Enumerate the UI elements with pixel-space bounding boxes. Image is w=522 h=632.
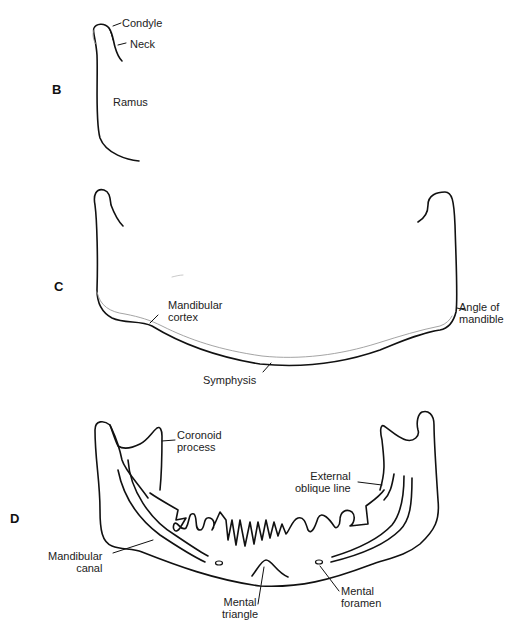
label-symphysis: Symphysis: [203, 374, 256, 386]
panel-letter-c: C: [54, 279, 63, 294]
label-mandibular-canal: Mandibular canal: [48, 550, 102, 574]
label-line: Mental: [222, 596, 258, 608]
label-line: cortex: [168, 311, 222, 323]
label-angle-of-mandible: Angle of mandible: [459, 301, 504, 325]
label-line: Mandibular: [168, 299, 222, 311]
label-mental-foramen: Mental foramen: [341, 585, 381, 609]
label-line: Coronoid: [177, 429, 222, 441]
panel-letter-d: D: [10, 511, 19, 526]
label-line: Mandibular: [48, 550, 102, 562]
label-mental-triangle: Mental triangle: [222, 596, 258, 620]
label-external-oblique-line: External oblique line: [295, 470, 351, 494]
label-line: External: [295, 470, 351, 482]
label-line: foramen: [341, 597, 381, 609]
label-neck: Neck: [130, 38, 155, 50]
label-line: Angle of: [459, 301, 504, 313]
label-mandibular-cortex: Mandibular cortex: [168, 299, 222, 323]
mandible-drawing-d: [95, 412, 438, 604]
label-line: process: [177, 441, 222, 453]
label-line: canal: [48, 562, 102, 574]
label-line: triangle: [222, 608, 258, 620]
label-ramus: Ramus: [113, 96, 148, 108]
panel-letter-b: B: [52, 82, 61, 97]
label-line: oblique line: [295, 482, 351, 494]
mandible-drawing-c: [94, 190, 465, 372]
label-condyle: Condyle: [122, 17, 162, 29]
label-coronoid-process: Coronoid process: [177, 429, 222, 453]
mandible-diagram: [0, 0, 522, 632]
label-line: Mental: [341, 585, 381, 597]
label-line: mandible: [459, 313, 504, 325]
